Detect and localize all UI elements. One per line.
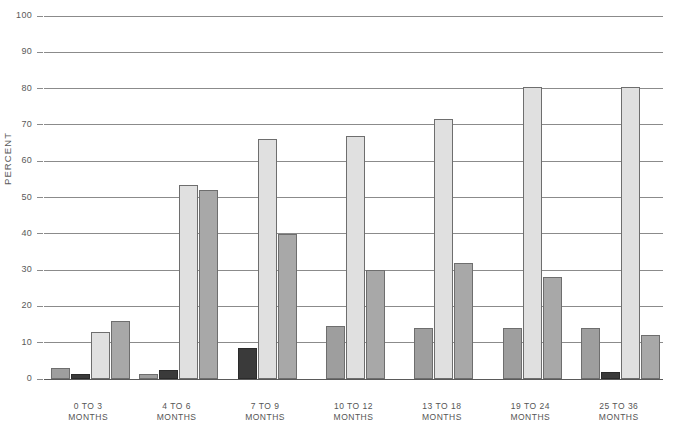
y-tick-label-70: 70 bbox=[2, 120, 32, 129]
y-tick-mark-40 bbox=[37, 233, 43, 234]
y-tick-label-80: 80 bbox=[2, 84, 32, 93]
bar-g1-2 bbox=[71, 374, 90, 379]
bar-g2-1 bbox=[139, 374, 158, 379]
y-tick-mark-30 bbox=[37, 270, 43, 271]
bar-g7-2 bbox=[601, 372, 620, 379]
y-tick-mark-50 bbox=[37, 197, 43, 198]
bar-g3-1 bbox=[238, 348, 257, 379]
bar-g1-3 bbox=[91, 332, 110, 379]
bar-g5-1 bbox=[414, 328, 433, 379]
bar-g4-3 bbox=[366, 270, 385, 379]
y-tick-mark-90 bbox=[37, 52, 43, 53]
bar-g2-2 bbox=[159, 370, 178, 379]
bar-chart: PERCENT 01020304050607080901000 TO 3 MON… bbox=[0, 0, 673, 426]
y-tick-mark-100 bbox=[37, 16, 43, 17]
bar-g6-3 bbox=[543, 277, 562, 379]
bar-g1-4 bbox=[111, 321, 130, 379]
x-axis-label-4: 10 TO 12 MONTHS bbox=[309, 401, 397, 422]
bar-g7-3 bbox=[621, 87, 640, 379]
y-tick-label-100: 100 bbox=[2, 11, 32, 20]
bar-g6-2 bbox=[523, 87, 542, 379]
y-tick-mark-10 bbox=[37, 342, 43, 343]
y-tick-mark-0 bbox=[37, 379, 43, 380]
bar-g4-1 bbox=[326, 326, 345, 379]
x-axis-label-3: 7 TO 9 MONTHS bbox=[221, 401, 309, 422]
y-tick-label-30: 30 bbox=[2, 265, 32, 274]
y-tick-mark-60 bbox=[37, 161, 43, 162]
y-tick-label-60: 60 bbox=[2, 156, 32, 165]
y-tick-mark-80 bbox=[37, 88, 43, 89]
x-axis-label-1: 0 TO 3 MONTHS bbox=[44, 401, 132, 422]
y-tick-label-10: 10 bbox=[2, 338, 32, 347]
gridline-90 bbox=[44, 52, 663, 53]
gridline-100 bbox=[44, 16, 663, 17]
gridline-70 bbox=[44, 124, 663, 125]
y-tick-label-0: 0 bbox=[2, 374, 32, 383]
bar-g3-3 bbox=[278, 234, 297, 379]
bar-g7-1 bbox=[581, 328, 600, 379]
y-tick-label-20: 20 bbox=[2, 301, 32, 310]
bar-g7-4 bbox=[641, 335, 660, 379]
bar-g2-4 bbox=[199, 190, 218, 379]
x-axis-label-2: 4 TO 6 MONTHS bbox=[132, 401, 220, 422]
plot-area: 01020304050607080901000 TO 3 MONTHS4 TO … bbox=[44, 16, 663, 379]
bar-g5-2 bbox=[434, 119, 453, 379]
bar-g3-2 bbox=[258, 139, 277, 379]
gridline-80 bbox=[44, 88, 663, 89]
bar-g5-3 bbox=[454, 263, 473, 379]
bar-g6-1 bbox=[503, 328, 522, 379]
y-tick-label-50: 50 bbox=[2, 193, 32, 202]
bar-g4-2 bbox=[346, 136, 365, 379]
bar-g2-3 bbox=[179, 185, 198, 379]
y-tick-label-40: 40 bbox=[2, 229, 32, 238]
x-axis-label-6: 19 TO 24 MONTHS bbox=[486, 401, 574, 422]
x-axis-label-7: 25 TO 36 MONTHS bbox=[575, 401, 663, 422]
y-tick-mark-20 bbox=[37, 306, 43, 307]
y-tick-mark-70 bbox=[37, 124, 43, 125]
x-axis-label-5: 13 TO 18 MONTHS bbox=[398, 401, 486, 422]
bar-g1-1 bbox=[51, 368, 70, 379]
y-tick-label-90: 90 bbox=[2, 47, 32, 56]
